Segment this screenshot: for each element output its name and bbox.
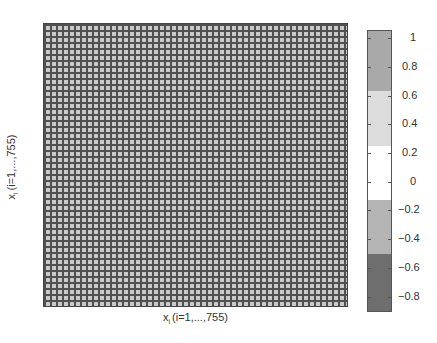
- colorbar-tick: [388, 239, 391, 240]
- colorbar-tick: [388, 268, 391, 269]
- colorbar-tick: [388, 96, 391, 97]
- colorbar-tick-label: −0.4: [398, 232, 420, 244]
- colorbar-tick: [388, 297, 391, 298]
- y-axis-label: xi(i=1,...,755): [5, 107, 19, 227]
- correlation-heatmap: [43, 23, 348, 307]
- y-axis-range: (i=1,...,755): [5, 135, 17, 191]
- colorbar-tick: [388, 153, 391, 154]
- colorbar-tick: [388, 38, 391, 39]
- colorbar-tick: [388, 67, 391, 68]
- colorbar-tick: [368, 67, 371, 68]
- colorbar-tick: [368, 239, 371, 240]
- colorbar-tick-label: 0: [410, 175, 416, 187]
- colorbar-band: [368, 31, 391, 91]
- colorbar-tick: [368, 124, 371, 125]
- colorbar-tick: [368, 96, 371, 97]
- y-axis-var: x: [5, 194, 17, 200]
- y-axis-subscript: i: [12, 192, 19, 194]
- x-axis-label: xi(i=1,...,755): [43, 311, 348, 325]
- colorbar: [367, 30, 392, 312]
- x-axis-subscript: i: [168, 318, 170, 325]
- colorbar-tick: [368, 297, 371, 298]
- colorbar-band: [368, 91, 391, 146]
- colorbar-band: [368, 200, 391, 253]
- colorbar-tick-label: 1: [410, 31, 416, 43]
- colorbar-tick-label: −0.8: [398, 290, 420, 302]
- colorbar-tick-label: −0.2: [398, 203, 420, 215]
- colorbar-tick-label: −0.6: [398, 261, 420, 273]
- colorbar-tick: [368, 210, 371, 211]
- colorbar-tick: [368, 268, 371, 269]
- x-axis-range: (i=1,...,755): [172, 311, 228, 323]
- colorbar-tick-label: 0.8: [402, 60, 417, 72]
- colorbar-tick-label: 0.6: [402, 89, 417, 101]
- colorbar-tick-label: 0.2: [402, 146, 417, 158]
- colorbar-tick-label: 0.4: [402, 117, 417, 129]
- colorbar-tick: [388, 124, 391, 125]
- colorbar-tick: [368, 38, 371, 39]
- colorbar-tick: [368, 182, 371, 183]
- colorbar-tick: [368, 153, 371, 154]
- colorbar-tick: [388, 182, 391, 183]
- colorbar-tick: [388, 210, 391, 211]
- colorbar-band: [368, 254, 391, 311]
